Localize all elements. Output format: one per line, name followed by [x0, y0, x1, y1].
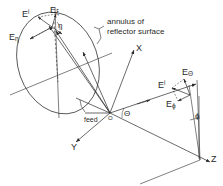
- farfield-vector-triad: [172, 79, 190, 101]
- y-axis-label: Y: [71, 143, 77, 152]
- e-xi-label: Eξ: [50, 6, 59, 16]
- x-axis-label: X: [136, 44, 142, 53]
- reflector-geometry-figure: Ei Eξ Eη η annulus of reflector surface …: [0, 0, 223, 186]
- reflector-annulus-ellipse: [3, 1, 113, 125]
- annulus-note-leader: [94, 26, 104, 44]
- e-incident-farfield-label: Ei: [158, 80, 165, 90]
- e-phi-label: Eϕ: [166, 100, 176, 110]
- x-axis-line: [110, 50, 134, 113]
- annulus-note-line1: annulus of: [107, 17, 164, 27]
- z-axis-label: Z: [211, 155, 217, 164]
- origin-label: O: [108, 115, 113, 121]
- theta-angle-label: Θ: [124, 110, 130, 118]
- phi-angle-label: ϕ: [195, 112, 199, 120]
- annulus-note-line2: reflector surface: [107, 27, 164, 37]
- eta-angle-label: η: [58, 22, 62, 30]
- e-theta-label: EΘ: [182, 68, 193, 78]
- ground-reference-line: [140, 160, 200, 184]
- feed-label: feed: [84, 116, 98, 123]
- e-eta-label: Eη: [9, 33, 19, 43]
- annulus-note: annulus of reflector surface: [107, 17, 164, 37]
- e-incident-reflector-label: Ei: [22, 9, 29, 19]
